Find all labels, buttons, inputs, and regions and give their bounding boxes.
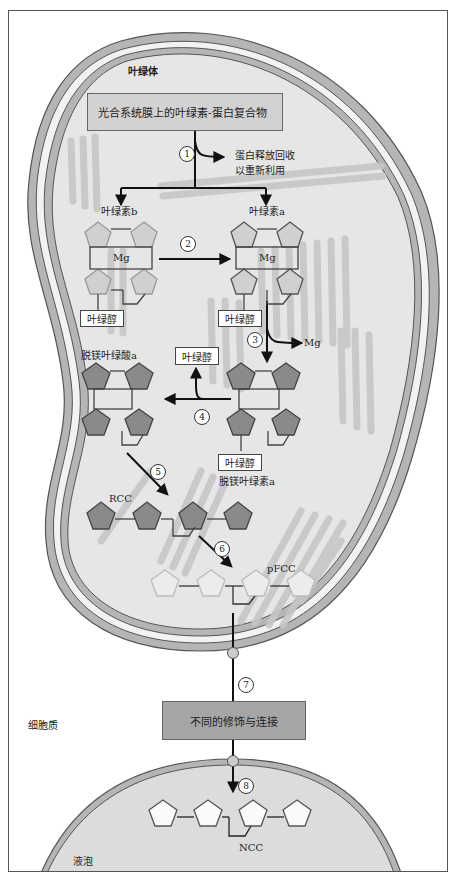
diagram-frame: 叶绿体 光合系统膜上的叶绿素-蛋白复合物 1 蛋白释放回收 以重新利用 叶绿素b…: [8, 10, 448, 872]
pheophytin-a-label: 脱镁叶绿素a: [219, 477, 275, 487]
cytoplasm-label: 细胞质: [28, 721, 58, 731]
protein-release-line1: 蛋白释放回收: [235, 151, 295, 161]
phytol-box-b: 叶绿醇: [80, 310, 124, 327]
modification-box-label: 不同的修饰与连接: [190, 713, 278, 729]
step-4: 4: [194, 409, 210, 425]
phytol-box-released: 叶绿醇: [175, 347, 219, 365]
ncc-label: NCC: [239, 843, 263, 853]
pfcc-label: pFCC: [267, 564, 296, 574]
mg-label-b: Mg: [113, 253, 130, 263]
chloroplast-label: 叶绿体: [128, 67, 158, 77]
mg-released-label: Mg: [304, 338, 321, 348]
step-3: 3: [247, 332, 263, 348]
chlorophyll-b-label: 叶绿素b: [101, 207, 137, 217]
step-6: 6: [214, 541, 230, 557]
vacuole-label: 液泡: [73, 857, 93, 867]
phytol-box-pheophytin: 叶绿醇: [218, 454, 262, 471]
rcc-label: RCC: [109, 494, 132, 504]
step-2: 2: [180, 236, 196, 252]
tonoplast-channel: [228, 756, 239, 767]
step-1: 1: [179, 146, 195, 162]
diagram-graphics: [9, 11, 448, 872]
step-7: 7: [238, 677, 254, 693]
vacuole: [41, 759, 401, 872]
modification-box: 不同的修饰与连接: [162, 701, 306, 740]
envelope-channel: [228, 648, 239, 659]
step-8: 8: [238, 778, 254, 794]
protein-release-line2: 以重新利用: [235, 166, 285, 176]
step-5: 5: [150, 464, 166, 480]
complex-box: 光合系统膜上的叶绿素-蛋白复合物: [87, 93, 283, 131]
complex-box-label: 光合系统膜上的叶绿素-蛋白复合物: [98, 104, 267, 120]
pheophorbide-a-label: 脱镁叶绿酸a: [81, 351, 137, 361]
chlorophyll-a-label: 叶绿素a: [249, 207, 285, 217]
mg-label-a: Mg: [259, 253, 276, 263]
phytol-box-a: 叶绿醇: [218, 310, 262, 327]
